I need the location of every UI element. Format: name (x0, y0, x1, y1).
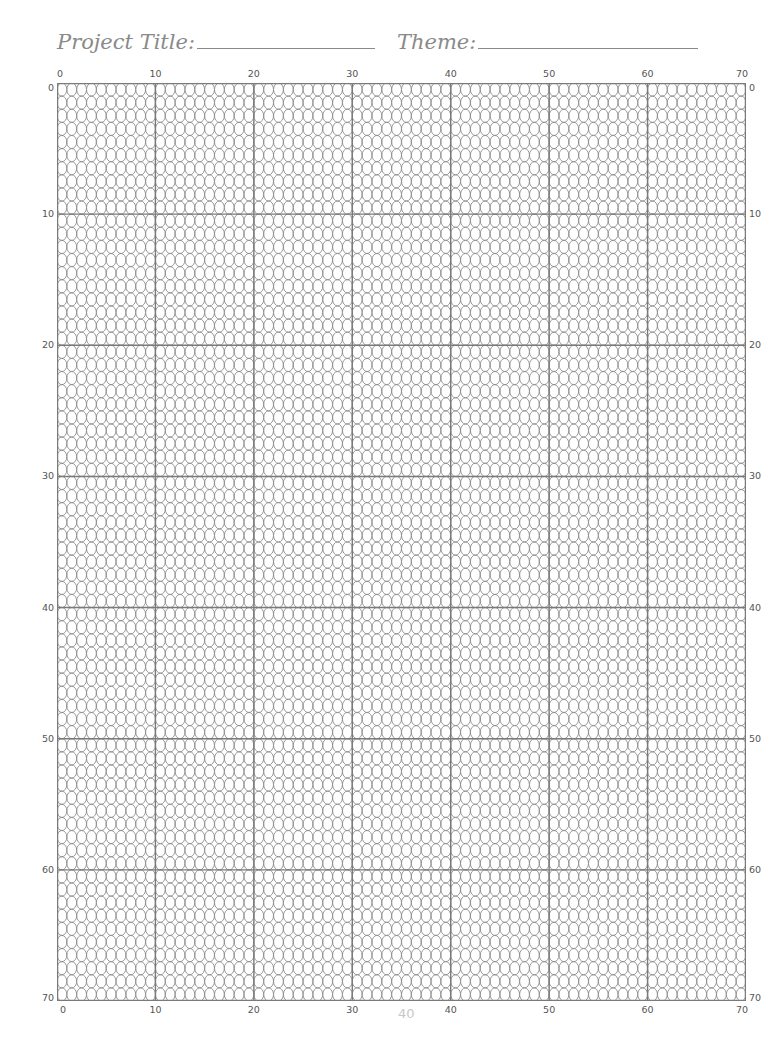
column-label-bottom: 0 (60, 1005, 66, 1015)
column-label-top: 60 (642, 69, 654, 79)
row-label-left: 40 (42, 603, 54, 613)
row-label-right: 60 (749, 865, 761, 875)
row-label-right: 10 (749, 209, 761, 219)
column-label-bottom: 20 (248, 1005, 260, 1015)
column-label-bottom: 10 (149, 1005, 161, 1015)
column-label-top: 40 (445, 69, 457, 79)
page-number: 40 (398, 1006, 415, 1021)
project-title-field[interactable]: Project Title: (57, 28, 375, 54)
header: Project Title: Theme: (0, 28, 776, 64)
column-label-top: 10 (149, 69, 161, 79)
row-label-left: 0 (48, 83, 54, 93)
column-label-bottom: 70 (736, 1005, 748, 1015)
row-label-right: 40 (749, 603, 761, 613)
column-label-bottom: 50 (543, 1005, 555, 1015)
row-label-right: 30 (749, 471, 761, 481)
row-label-left: 50 (42, 734, 54, 744)
oval-bead-grid[interactable] (57, 83, 746, 1001)
column-label-top: 0 (57, 69, 63, 79)
row-label-left: 10 (42, 209, 54, 219)
project-title-blank-line[interactable] (197, 28, 375, 49)
column-label-top: 50 (543, 69, 555, 79)
row-label-right: 0 (749, 83, 755, 93)
grid-canvas[interactable] (57, 83, 746, 1001)
row-label-right: 70 (749, 993, 761, 1003)
row-label-right: 20 (749, 340, 761, 350)
column-label-bottom: 30 (346, 1005, 358, 1015)
row-label-right: 50 (749, 734, 761, 744)
oval-cells[interactable] (57, 83, 746, 1001)
column-label-top: 30 (346, 69, 358, 79)
project-title-label: Project Title: (57, 30, 195, 54)
row-label-left: 20 (42, 340, 54, 350)
column-label-top: 70 (736, 69, 748, 79)
row-label-left: 60 (42, 865, 54, 875)
column-label-bottom: 60 (642, 1005, 654, 1015)
column-label-top: 20 (248, 69, 260, 79)
theme-label: Theme: (397, 30, 476, 54)
column-label-bottom: 40 (445, 1005, 457, 1015)
theme-blank-line[interactable] (478, 28, 698, 49)
theme-field[interactable]: Theme: (397, 28, 698, 54)
row-label-left: 30 (42, 471, 54, 481)
row-label-left: 70 (42, 993, 54, 1003)
